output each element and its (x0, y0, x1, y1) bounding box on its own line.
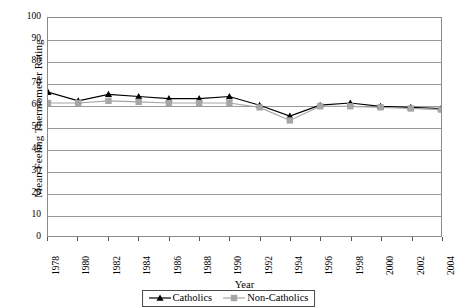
x-axis-tick-label: 2000 (385, 256, 395, 275)
x-axis-tick-label: 2004 (446, 256, 456, 275)
x-axis-tick (442, 237, 443, 241)
y-axis-tick-labels: 0102030405060708090100 (0, 0, 44, 307)
plot-area (47, 17, 442, 237)
legend-label: Catholics (173, 292, 213, 304)
data-point (256, 104, 262, 110)
data-point (47, 89, 52, 95)
series-non-catholics (47, 98, 442, 124)
y-axis-tick-label: 40 (32, 144, 42, 154)
y-axis-tick-label: 60 (32, 100, 42, 110)
x-axis-tick-label: 1998 (355, 256, 365, 275)
data-point (287, 117, 293, 123)
x-axis-tick-label: 1988 (203, 256, 213, 275)
x-axis-tick-label: 1984 (142, 256, 152, 275)
data-point (347, 103, 353, 109)
x-axis-tick-labels: 1978198019821984198619881990199219941996… (47, 241, 442, 281)
data-point (226, 100, 232, 106)
y-axis-tick-label: 0 (36, 232, 41, 242)
x-axis-tick-label: 1978 (51, 256, 61, 275)
series-layer (48, 18, 441, 236)
legend-item-non-catholics[interactable]: Non-Catholics (223, 292, 308, 304)
x-axis-tick-label: 1992 (264, 256, 274, 275)
y-axis-tick-label: 30 (32, 166, 42, 176)
square-marker-icon (223, 293, 245, 303)
y-axis-tick-label: 10 (32, 210, 42, 220)
chart-legend: CatholicsNon-Catholics (142, 290, 316, 307)
y-axis-tick-label: 100 (27, 12, 41, 22)
y-axis-tick-label: 90 (32, 34, 42, 44)
x-axis-tick-label: 1994 (294, 256, 304, 275)
data-point (196, 100, 202, 106)
x-axis-tick-label: 1996 (324, 256, 334, 275)
x-axis-tick-label: 1980 (81, 256, 91, 275)
y-axis-tick-label: 50 (32, 122, 42, 132)
legend-label: Non-Catholics (247, 292, 308, 304)
data-point (105, 98, 111, 104)
data-point (136, 99, 142, 105)
data-point (47, 100, 51, 106)
chart-container: Mean Feeling Thermometer Rating 01020304… (0, 0, 457, 307)
x-axis-tick-label: 2002 (416, 256, 426, 275)
legend-item-catholics[interactable]: Catholics (149, 292, 213, 304)
data-point (438, 106, 442, 112)
x-axis-tick-label: 1982 (112, 256, 122, 275)
x-axis-tick-label: 1986 (173, 256, 183, 275)
y-axis-tick-label: 70 (32, 78, 42, 88)
data-point (317, 103, 323, 109)
data-point (377, 104, 383, 110)
data-point (408, 105, 414, 111)
x-axis-tick-label: 1990 (233, 256, 243, 275)
y-axis-tick-label: 20 (32, 188, 42, 198)
triangle-marker-icon (149, 293, 171, 303)
y-axis-tick-label: 80 (32, 56, 42, 66)
data-point (166, 100, 172, 106)
x-axis-title: Year (47, 279, 442, 290)
data-point (75, 100, 81, 106)
